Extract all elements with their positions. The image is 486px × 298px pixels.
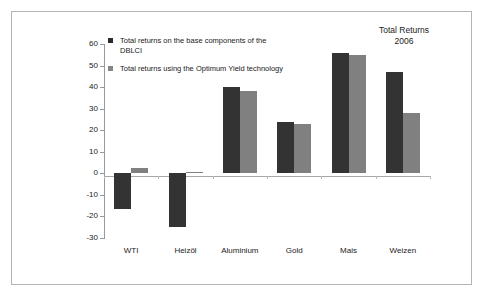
y-tick-mark — [100, 109, 104, 110]
x-tick-mark — [430, 176, 431, 179]
chart-legend: Total returns on the base components of … — [108, 36, 284, 91]
y-tick-mark — [100, 130, 104, 131]
x-tick-mark — [267, 176, 268, 179]
y-tick-label: 40 — [74, 83, 98, 91]
bar-mais-series1 — [332, 53, 349, 174]
legend-item-optimum-yield: Total returns using the Optimum Yield te… — [108, 64, 284, 82]
y-tick-label: 60 — [74, 40, 98, 48]
y-tick-mark — [100, 173, 104, 174]
bar-gold-series2 — [294, 124, 311, 174]
bar-aluminium-series2 — [240, 91, 257, 173]
legend-label-optimum-yield: Total returns using the Optimum Yield te… — [120, 64, 284, 74]
x-axis-label-weizen: Weizen — [373, 246, 433, 256]
bar-weizen-series2 — [403, 113, 420, 173]
legend-item-base: Total returns on the base components of … — [108, 36, 284, 55]
x-tick-mark — [376, 176, 377, 179]
legend-label-base: Total returns on the base components of … — [120, 36, 284, 55]
bar-heizl-series2 — [186, 172, 203, 174]
bar-wti-series1 — [114, 173, 131, 209]
x-axis-label-aluminium: Aluminium — [210, 246, 270, 256]
x-tick-mark — [213, 176, 214, 179]
legend-swatch-icon-optimum-yield — [108, 66, 113, 71]
y-tick-mark — [100, 216, 104, 217]
y-tick-mark — [100, 87, 104, 88]
y-tick-mark — [100, 66, 104, 67]
x-axis-label-wti: WTI — [101, 246, 161, 256]
y-tick-label: 20 — [74, 126, 98, 134]
bar-mais-series2 — [349, 55, 366, 174]
x-tick-mark — [104, 176, 105, 179]
y-tick-label: 50 — [74, 62, 98, 70]
x-axis-label-mais: Mais — [319, 246, 379, 256]
x-axis-label-gold: Gold — [264, 246, 324, 256]
chart-title-line2: 2006 — [344, 36, 464, 47]
bar-chart-plot: Total Returns 2006 Total returns on the … — [0, 0, 486, 298]
bar-heizl-series1 — [169, 173, 186, 227]
chart-title: Total Returns 2006 — [344, 25, 464, 47]
y-tick-mark — [100, 238, 104, 239]
x-tick-mark — [321, 176, 322, 179]
y-tick-label: -10 — [74, 191, 98, 199]
y-axis-line — [104, 44, 105, 239]
bar-aluminium-series1 — [223, 87, 240, 173]
bar-wti-series2 — [131, 168, 148, 173]
bar-gold-series1 — [277, 122, 294, 174]
y-tick-mark — [100, 195, 104, 196]
y-tick-label: 10 — [74, 148, 98, 156]
bar-weizen-series1 — [386, 72, 403, 173]
y-tick-label: -30 — [74, 234, 98, 242]
x-tick-mark — [158, 176, 159, 179]
y-tick-mark — [100, 152, 104, 153]
y-tick-mark — [100, 44, 104, 45]
y-tick-label: -20 — [74, 212, 98, 220]
y-tick-label: 30 — [74, 105, 98, 113]
chart-screenshot: Total Returns 2006 Total returns on the … — [0, 0, 486, 298]
legend-swatch-icon-base — [108, 38, 113, 43]
x-axis-label-heizl: Heizöl — [156, 246, 216, 256]
chart-title-line1: Total Returns — [344, 25, 464, 36]
y-tick-label: 0 — [74, 169, 98, 177]
